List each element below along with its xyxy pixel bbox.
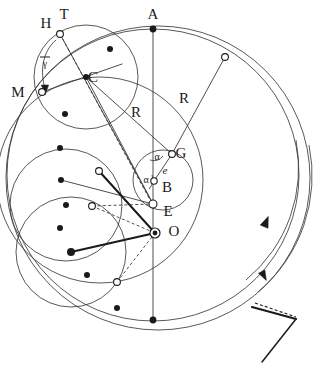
line-dot3-to-E-horizontal [61,180,153,204]
label-alpha-upper: α [154,151,160,162]
label-C: C [88,69,98,85]
label-T: T [59,6,68,22]
point-dot-7 [84,272,90,278]
circle-mid-large [0,77,203,283]
arrowhead-rotation-ccw [260,215,272,228]
diagram-root: ATHMCGBEORReααγ [0,0,317,375]
label-O: O [169,223,180,239]
label-A: A [148,6,159,22]
point-dot-8 [114,305,120,311]
label-G: G [176,145,187,161]
point-bottom-marker [150,317,157,324]
angle-key-group [252,303,296,362]
point-T-marker [57,31,64,38]
point-upper-right-marker [222,54,229,61]
arrowhead-rotation-cw [258,270,269,282]
label-R-left: R [131,104,141,120]
point-dot-2 [57,145,63,151]
label-E: E [163,203,172,219]
angle-key-lower-arm [262,319,296,362]
labels-group: ATHMCGBEORReααγ [11,6,189,239]
geometric-diagram: ATHMCGBEORReααγ [0,0,317,375]
point-M-marker [39,89,46,96]
point-A-marker [150,26,157,33]
label-M: M [11,84,24,100]
point-G-marker [169,151,176,158]
point-dot-top-circle [107,46,113,52]
point-mid-left-node [89,203,96,210]
point-alpha-vertex-marker [151,178,157,184]
line-mid-node-to-O-dashed [92,206,155,233]
point-E-marker [149,200,157,208]
point-O-marker-inner [153,231,158,236]
point-dot-1 [62,111,68,117]
point-dot-3 [58,177,64,183]
line-C-to-G-radius-R [86,77,172,154]
label-e: e [163,164,168,176]
label-B: B [162,179,172,195]
point-dot-6-thick [67,248,75,256]
angle-key-solid-arm [252,307,296,319]
point-dot-4 [63,202,69,208]
label-gamma: γ [42,58,48,69]
label-R-right: R [179,90,189,106]
point-dot-5 [57,225,63,231]
label-alpha-lower: α [143,174,149,185]
label-H: H [41,15,52,31]
point-lower-node [114,279,121,286]
lines-dashed-group [60,34,155,282]
point-upper-left-node [96,168,103,175]
circle-outer-secondary [6,26,310,330]
